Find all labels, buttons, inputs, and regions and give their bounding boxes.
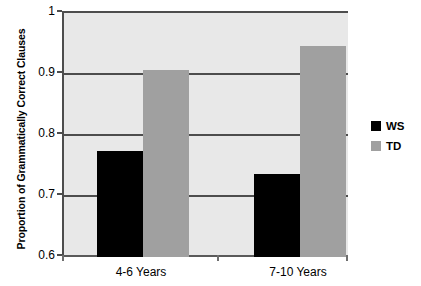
x-axis-tick-mark bbox=[346, 255, 348, 261]
x-axis-tick-mark bbox=[217, 255, 219, 261]
legend-item: WS bbox=[371, 118, 419, 134]
y-axis-tick-label: 0.7 bbox=[15, 188, 55, 200]
legend: WSTD bbox=[371, 118, 419, 158]
y-axis-tick-label: 0.8 bbox=[15, 127, 55, 139]
legend-label: WS bbox=[386, 120, 405, 132]
plot-area bbox=[62, 11, 348, 257]
y-axis-tick-label: 0.6 bbox=[15, 249, 55, 261]
bar-ws-7-10-years bbox=[254, 174, 300, 257]
x-axis-category-label: 4-6 Years bbox=[81, 265, 201, 279]
legend-label: TD bbox=[386, 140, 401, 152]
bar-td-7-10-years bbox=[300, 46, 346, 257]
legend-item: TD bbox=[371, 138, 419, 154]
y-axis-tick-label: 1 bbox=[15, 5, 55, 17]
y-axis-title: Proportion of Grammatically Correct Clau… bbox=[13, 15, 29, 263]
y-axis-tick-label: 0.9 bbox=[15, 66, 55, 78]
bar-ws-4-6-years bbox=[97, 151, 143, 257]
bar-td-4-6-years bbox=[143, 70, 189, 257]
x-axis-tick-mark bbox=[62, 255, 64, 261]
bar-chart: Proportion of Grammatically Correct Clau… bbox=[0, 0, 421, 286]
legend-swatch-ws bbox=[371, 121, 381, 131]
x-axis-category-label: 7-10 Years bbox=[238, 265, 358, 279]
legend-swatch-td bbox=[371, 141, 381, 151]
